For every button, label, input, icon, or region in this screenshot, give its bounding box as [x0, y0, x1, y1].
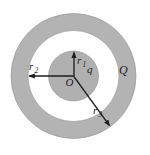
- physics-diagram: r 1 r 2 r 3 O q Q: [0, 0, 150, 155]
- label-inner-charge-q: q: [87, 63, 93, 75]
- label-r1-subscript: 1: [83, 60, 87, 69]
- concentric-charged-spheres-figure: r 1 r 2 r 3 O q Q: [0, 0, 150, 155]
- label-r3-base: r: [93, 104, 98, 116]
- label-r2-base: r: [29, 60, 34, 72]
- label-shell-charge-Q: Q: [119, 63, 128, 77]
- label-r3-subscript: 3: [98, 110, 103, 119]
- label-r1-base: r: [77, 54, 82, 66]
- label-r2-subscript: 2: [35, 66, 39, 75]
- label-origin-o: O: [66, 76, 74, 88]
